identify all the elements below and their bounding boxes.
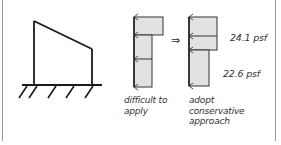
caption-detailed: difficult to apply [124, 95, 167, 116]
wind-load-diagram: ⇒ 24.1 psf 22.6 psf difficult to apply a… [0, 0, 281, 145]
load-diagram-conservative [189, 14, 217, 89]
load-diagram-detailed [134, 14, 163, 90]
caption-conservative: adopt conservative approach [189, 95, 244, 127]
upper-load-label: 24.1 psf [230, 32, 267, 43]
building-frame-icon [22, 21, 102, 85]
caption-line: adopt [189, 95, 244, 106]
lower-load-label: 22.6 psf [223, 68, 260, 79]
caption-line: difficult to [124, 95, 167, 106]
caption-line: apply [124, 106, 167, 117]
ground-hatch-icon [19, 86, 93, 98]
implies-arrow-icon: ⇒ [171, 34, 180, 47]
caption-line: conservative [189, 106, 244, 117]
caption-line: approach [189, 116, 244, 127]
